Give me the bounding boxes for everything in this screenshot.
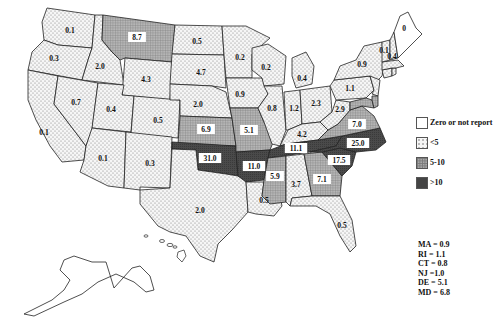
state-value-label-nd: 0.5 (192, 37, 202, 46)
state-value-label-az: 0.1 (98, 154, 108, 163)
state-value-label-ks: 6.9 (201, 125, 211, 134)
state-value-label-co: 0.5 (153, 116, 163, 125)
state-value-label-ms: 5.9 (270, 172, 280, 181)
state-value-label-sc: 17.5 (332, 156, 345, 165)
small-state-notes: MA = 0.9 RI = 1.1 CT = 0.8 NJ =1.0 DE = … (418, 240, 450, 297)
legend-item-low: <5 (416, 134, 492, 151)
state-value-label-in: 1.2 (289, 104, 299, 113)
state-value-label-sd: 4.7 (196, 68, 206, 77)
state-value-label-tn: 11.1 (290, 144, 303, 153)
state-value-label-mo: 5.1 (244, 126, 254, 135)
state-value-label-tx: 2.0 (195, 206, 205, 215)
note-ma: MA = 0.9 (418, 240, 450, 250)
state-value-label-ky: 4.2 (297, 130, 307, 139)
state-value-label-ut: 0.4 (106, 105, 116, 114)
state-ak[interactable] (24, 256, 154, 316)
state-value-label-me: 0 (402, 24, 406, 33)
state-value-label-mt: 8.7 (132, 33, 142, 42)
legend-label: >10 (430, 178, 443, 187)
legend-swatch-high (416, 177, 428, 189)
state-value-label-id: 2.0 (95, 62, 105, 71)
state-value-label-il: 0.8 (267, 104, 277, 113)
legend-label: <5 (430, 138, 439, 147)
legend-label: 5-10 (430, 158, 445, 167)
state-value-label-ny: 0.9 (357, 60, 367, 69)
state-value-label-al: 3.7 (291, 180, 301, 189)
state-value-label-ar: 11.0 (248, 162, 261, 171)
state-mi[interactable] (292, 52, 314, 88)
note-md: MD = 6.8 (418, 288, 450, 298)
state-value-label-va: 7.0 (352, 120, 362, 129)
state-ri[interactable] (392, 68, 396, 76)
legend-item-zero: Zero or not report (416, 114, 492, 131)
legend-label: Zero or not report (430, 118, 492, 127)
hawaii-islands (144, 235, 186, 262)
state-value-label-pa: 1.1 (345, 84, 355, 93)
legend-swatch-mid (416, 157, 428, 169)
state-value-label-ca: 0.1 (39, 128, 49, 137)
state-value-label-nc: 25.0 (351, 139, 364, 148)
state-value-label-mn: 0.2 (235, 53, 245, 62)
state-value-label-nv: 0.7 (71, 98, 81, 107)
state-value-label-wi: 0.2 (261, 63, 271, 72)
state-value-label-or: 0.3 (49, 54, 59, 63)
state-value-label-wa: 0.1 (65, 26, 75, 35)
state-value-label-ia: 0.9 (235, 90, 245, 99)
note-de: DE = 5.1 (418, 278, 450, 288)
state-value-label-wv: 2.9 (335, 105, 345, 114)
state-value-label-ok: 31.0 (203, 154, 216, 163)
legend: Zero or not report <5 5-10 >10 (416, 114, 492, 194)
state-value-label-mi: 0.4 (297, 74, 307, 83)
note-nj: NJ =1.0 (418, 269, 450, 279)
state-value-label-oh: 2.3 (311, 99, 321, 108)
state-value-label-fl: 0.5 (337, 221, 347, 230)
state-value-label-ga: 7.1 (317, 175, 327, 184)
state-value-label-wy: 4.3 (141, 75, 151, 84)
state-value-label-nm: 0.3 (145, 159, 155, 168)
state-value-label-la: 0.5 (259, 196, 269, 205)
note-ri: RI = 1.1 (418, 250, 450, 260)
note-ct: CT = 0.8 (418, 259, 450, 269)
state-value-label-nh: 0.4 (387, 52, 397, 61)
state-value-label-ne: 2.0 (193, 100, 203, 109)
legend-swatch-zero (416, 117, 428, 129)
states-layer (24, 8, 422, 316)
legend-item-high: >10 (416, 174, 492, 191)
legend-swatch-low (416, 137, 428, 149)
state-me[interactable] (394, 12, 422, 58)
legend-item-mid: 5-10 (416, 154, 492, 171)
